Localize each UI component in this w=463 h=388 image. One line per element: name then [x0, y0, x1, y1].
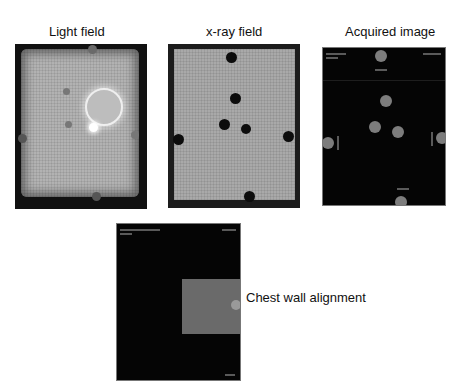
marker — [230, 93, 241, 104]
marker — [241, 124, 251, 134]
marker — [92, 192, 101, 201]
overlay-text — [337, 136, 339, 150]
xray-field-image — [168, 44, 300, 208]
overlay-text — [375, 69, 387, 71]
light-field-title: Light field — [49, 24, 105, 39]
bright-circle — [85, 88, 123, 126]
acquired-image — [322, 47, 446, 206]
marker — [65, 121, 72, 128]
chest-wall-label: Chest wall alignment — [246, 290, 366, 305]
overlay-text — [120, 229, 160, 231]
overlay-text — [397, 188, 409, 190]
marker — [322, 137, 334, 149]
marker — [219, 119, 230, 130]
marker — [88, 45, 97, 54]
chest-wall-image — [116, 223, 241, 381]
marker — [18, 134, 27, 143]
marker — [231, 300, 241, 310]
marker — [375, 50, 387, 62]
marker — [380, 95, 392, 107]
overlay-text — [326, 53, 346, 55]
light-field-area — [21, 49, 139, 197]
marker — [173, 134, 184, 145]
bright-dot — [89, 123, 98, 132]
marker — [63, 88, 70, 95]
marker — [226, 52, 237, 63]
overlay-text — [326, 57, 338, 59]
marker — [283, 131, 294, 142]
faint-line — [323, 80, 445, 81]
xray-field-title: x-ray field — [206, 24, 262, 39]
marker — [244, 191, 255, 202]
marker — [395, 196, 407, 206]
marker — [369, 121, 381, 133]
xray-field-area — [174, 49, 295, 200]
overlay-text — [225, 374, 235, 376]
overlay-text — [423, 53, 441, 55]
light-field-image — [15, 44, 147, 209]
marker — [392, 126, 404, 138]
overlay-text — [431, 132, 433, 146]
acquired-image-title: Acquired image — [345, 24, 435, 39]
marker — [131, 131, 139, 139]
overlay-text — [222, 229, 236, 231]
marker — [436, 132, 446, 144]
overlay-text — [120, 233, 132, 235]
